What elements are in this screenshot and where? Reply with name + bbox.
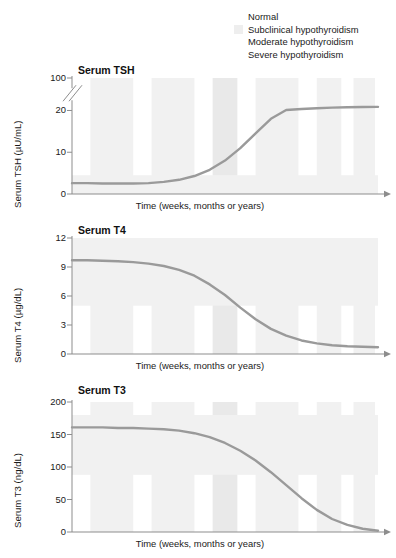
legend-label: Moderate hypothyroidism xyxy=(248,36,353,49)
y-axis-tick-label: 100 xyxy=(28,72,66,83)
legend-item: Normal xyxy=(234,11,394,24)
legend: Normal Subclinical hypothyroidism Modera… xyxy=(234,11,394,61)
x-axis-label-t3: Time (weeks, months or years) xyxy=(110,538,290,549)
x-axis-arrow-icon xyxy=(384,351,391,357)
y-axis-tick-label: 100 xyxy=(28,461,66,472)
y-axis-tick-label: 12 xyxy=(28,232,66,243)
y-axis-tick-label: 50 xyxy=(28,494,66,505)
chart-panel-t4: Serum T4 Serum T4 (µg/dL) 036912 Time (w… xyxy=(0,218,396,378)
x-axis-arrow-icon xyxy=(384,529,391,535)
legend-swatch-subclinical xyxy=(234,25,243,34)
y-axis-tick-label: 0 xyxy=(28,188,66,199)
x-axis-label-t4: Time (weeks, months or years) xyxy=(110,360,290,371)
plot-area-t4: 036912 xyxy=(0,218,396,378)
y-axis-tick-label: 6 xyxy=(28,290,66,301)
legend-item: Moderate hypothyroidism xyxy=(234,36,394,49)
y-axis-tick-label: 20 xyxy=(28,104,66,115)
y-axis-tick-label: 9 xyxy=(28,261,66,272)
legend-label: Normal xyxy=(248,11,278,24)
legend-swatch-moderate xyxy=(234,38,243,47)
x-axis-arrow-icon xyxy=(384,191,391,197)
legend-item: Subclinical hypothyroidism xyxy=(234,24,394,37)
legend-swatch-normal xyxy=(234,13,243,22)
y-axis-tick-label: 10 xyxy=(28,146,66,157)
y-axis-tick-label: 200 xyxy=(28,396,66,407)
legend-label: Subclinical hypothyroidism xyxy=(248,24,358,37)
chart-panel-tsh: Serum TSH Serum TSH (µU/mL) 01020100 Tim… xyxy=(0,58,396,218)
chart-panel-t3: Serum T3 Serum T3 (ng/dL) 050100150200 T… xyxy=(0,378,396,558)
reference-range-band xyxy=(72,415,378,475)
y-axis-tick-label: 0 xyxy=(28,526,66,537)
x-axis-label-tsh: Time (weeks, months or years) xyxy=(110,200,290,211)
y-axis-tick-label: 3 xyxy=(28,319,66,330)
y-axis-tick-label: 0 xyxy=(28,348,66,359)
plot-area-t3: 050100150200 xyxy=(0,378,396,558)
plot-area-tsh: 01020100 xyxy=(0,58,396,218)
y-axis-tick-label: 150 xyxy=(28,429,66,440)
